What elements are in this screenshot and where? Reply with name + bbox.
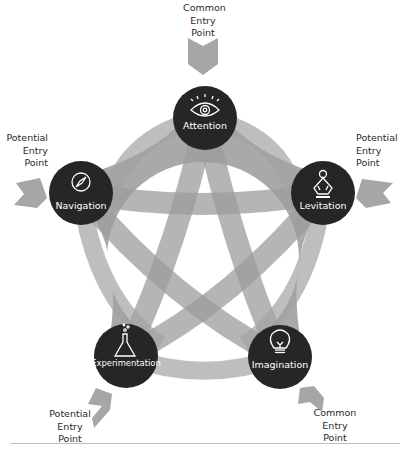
node-label-imagination: Imagination [252, 359, 309, 370]
entry-label-levitation: Potential Entry Point [356, 132, 404, 170]
bottom-divider [10, 443, 400, 444]
node-attention: Attention [173, 86, 237, 150]
entry-label-experimentation: Potential Entry Point [45, 408, 95, 446]
node-label-attention: Attention [183, 120, 227, 131]
entry-label-navigation: Potential Entry Point [0, 132, 48, 170]
node-levitation: Levitation [291, 161, 355, 225]
entry-label-attention: Common Entry Point [183, 2, 223, 40]
node-label-experimentation: Experimentation [91, 358, 161, 368]
node-imagination: Imagination [248, 325, 312, 389]
arrow-levitation [356, 179, 393, 208]
node-navigation: Navigation [49, 161, 113, 225]
entry-point-pentagram-diagram: Attention Levitation Imagination Exper [0, 0, 404, 455]
arrow-navigation [14, 178, 47, 208]
entry-label-imagination: Common Entry Point [313, 407, 357, 445]
arrow-attention [188, 38, 218, 75]
node-label-levitation: Levitation [300, 200, 347, 211]
node-label-navigation: Navigation [55, 200, 106, 211]
